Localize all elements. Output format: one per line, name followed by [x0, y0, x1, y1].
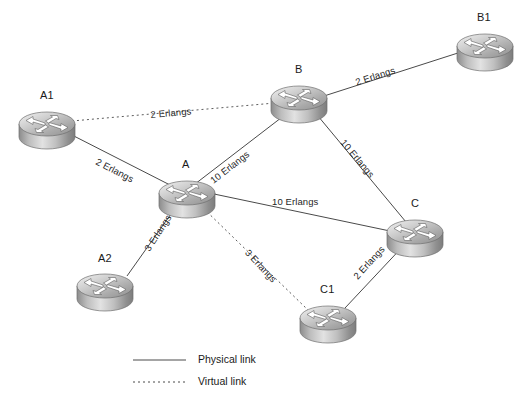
router-icon-A: [159, 181, 215, 218]
router-label-A2: A2: [98, 252, 112, 264]
router-icon-A1: [19, 112, 75, 149]
router-label-A1: A1: [40, 89, 54, 101]
legend-line-samples: [133, 360, 186, 382]
routers-group: [19, 34, 513, 343]
router-icon-B: [271, 86, 327, 123]
link-a-b: [195, 111, 290, 184]
link-label-a-c: 10 Erlangs: [272, 196, 318, 207]
legend-label-physical: Physical link: [198, 353, 256, 365]
router-label-B: B: [295, 63, 303, 75]
diagram-canvas: [0, 0, 532, 404]
router-label-B1: B1: [477, 11, 491, 23]
legend-label-virtual: Virtual link: [198, 375, 246, 387]
router-icon-C: [387, 220, 443, 257]
router-label-C1: C1: [320, 283, 334, 295]
router-icon-B1: [457, 34, 513, 71]
router-label-C: C: [411, 197, 419, 209]
router-label-A: A: [182, 158, 190, 170]
router-icon-A2: [77, 274, 133, 311]
network-topology-figure: A1AA2BB1CC1 2 Erlangs2 Erlangs10 Erlangs…: [0, 0, 532, 404]
router-icon-C1: [300, 306, 356, 343]
